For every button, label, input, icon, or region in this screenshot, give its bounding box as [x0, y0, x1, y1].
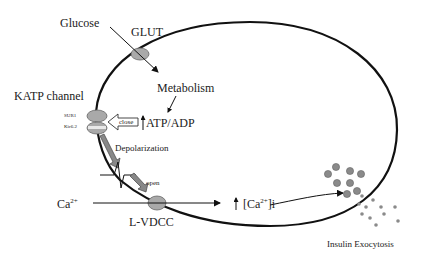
diagram-canvas: Glucose GLUT Metabolism KATP channel SUR… [0, 0, 424, 256]
kir62-label: Kir6.2 [64, 124, 77, 129]
calcium-to-exocytosis-arrow [270, 193, 343, 205]
katp-channel-icon [87, 110, 107, 134]
atp-adp-label: ATP/ADP [146, 117, 195, 129]
voltage-spike-icon [100, 162, 136, 188]
calcium-int-suffix: ]i [268, 197, 275, 211]
open-label: open [146, 180, 160, 187]
depolarization-label: Depolarization [115, 144, 168, 153]
glut-label: GLUT [131, 26, 163, 38]
calcium-extracellular-label: Ca2+ [57, 198, 78, 210]
katp-channel-label: KATP channel [14, 90, 84, 102]
calcium-intracellular-label: [Ca2+]i [243, 198, 275, 210]
calcium-ext-charge: 2+ [70, 197, 77, 205]
insulin-granules [324, 163, 364, 197]
close-label: close [119, 119, 133, 126]
calcium-int-charge: 2+ [260, 197, 267, 205]
glucose-label: Glucose [60, 17, 99, 29]
insulin-exocytosis-label: Insulin Exocytosis [327, 240, 394, 249]
calcium-int-text: [Ca [243, 197, 260, 211]
metabolism-arrow [168, 96, 176, 112]
lvdcc-label: L-VDCC [129, 216, 174, 228]
sur1-label: SUR1 [64, 113, 76, 118]
metabolism-label: Metabolism [157, 82, 214, 94]
calcium-ext-text: Ca [57, 197, 70, 211]
